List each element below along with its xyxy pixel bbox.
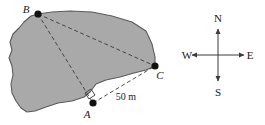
survey-diagram-figure: B C A 50 m N S W E	[0, 0, 265, 125]
distance-label-a-c: 50 m	[116, 91, 137, 102]
compass-rose: N S W E	[182, 12, 254, 98]
compass-label-north: N	[214, 12, 222, 24]
vertex-point-b	[34, 10, 41, 17]
vertex-point-a	[89, 99, 96, 106]
vertex-label-c: C	[156, 69, 164, 81]
compass-label-west: W	[182, 49, 193, 61]
compass-label-south: S	[215, 86, 221, 98]
survey-diagram-canvas: B C A 50 m N S W E	[0, 0, 265, 125]
vertex-label-a: A	[83, 108, 91, 120]
vertex-label-b: B	[23, 3, 30, 15]
compass-label-east: E	[247, 49, 254, 61]
